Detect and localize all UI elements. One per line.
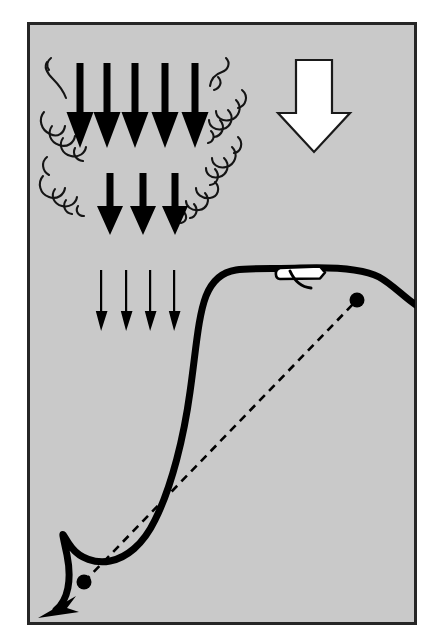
illustration-canvas: Microburst wind shear encounter diagram — [0, 0, 435, 640]
marker-point-lower-left — [77, 575, 92, 590]
marker-point-upper-right — [350, 293, 365, 308]
figure-root: Microburst wind shear encounter diagram — [0, 0, 435, 640]
downdraft-row-middle — [97, 173, 188, 235]
aircraft-fuselage — [276, 267, 325, 280]
